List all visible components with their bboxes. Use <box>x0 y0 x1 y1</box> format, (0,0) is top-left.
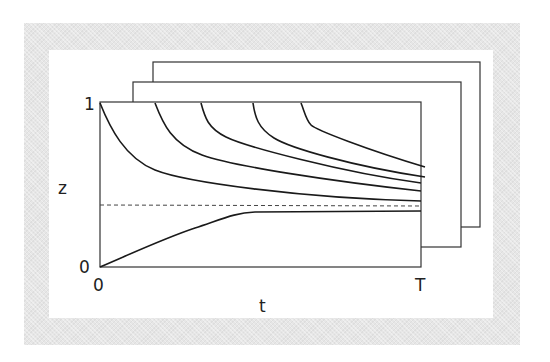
y-tick-top: 1 <box>84 96 95 113</box>
x-axis-label: t <box>259 298 266 315</box>
x-tick-left: 0 <box>93 277 104 294</box>
phase-diagram <box>0 0 550 362</box>
y-axis-label: z <box>58 180 67 197</box>
x-tick-right: T <box>415 277 425 294</box>
y-tick-bottom: 0 <box>79 259 90 276</box>
